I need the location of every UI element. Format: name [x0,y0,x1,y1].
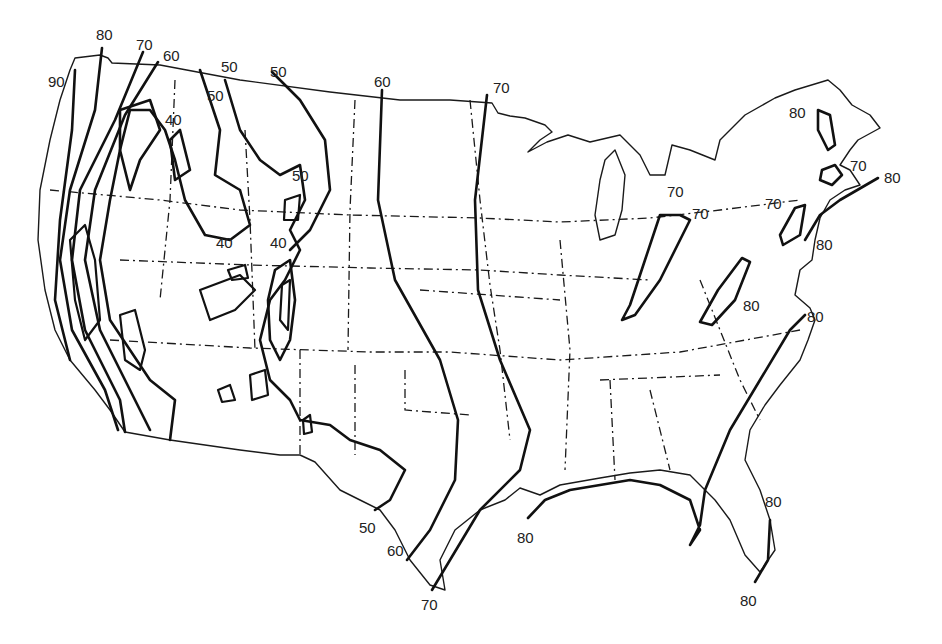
contour-label: 80 [807,309,824,324]
isoline-small5 [303,415,312,434]
contour-label: 50 [292,168,309,183]
us-isoline-map [0,0,942,644]
contour-label: 50 [270,64,287,79]
contour-label: 70 [692,206,709,221]
contour-label: 80 [743,298,760,313]
isoline-appalachian [700,258,750,325]
isoline-small4 [250,370,268,400]
contour-label: 80 [789,105,806,120]
contour-label: 70 [850,158,867,173]
isoline-50-arc [272,72,330,250]
contour-label: 80 [765,494,782,509]
isoline-ne-80 [818,110,835,150]
country-outline [38,55,880,590]
isoline-60-central [378,90,458,560]
isoline-ne-70 [820,165,842,185]
contour-label: 50 [359,520,376,535]
isoline-90 [55,70,75,360]
contour-label: 80 [884,170,901,185]
contour-label: 70 [421,597,438,612]
isoline-50-center [225,80,405,510]
contour-label: 60 [163,48,180,63]
contour-label: 90 [48,74,65,89]
contour-label: 50 [207,88,224,103]
isoline-ne-80b [780,205,805,245]
contour-label: 50 [221,59,238,74]
isoline-west-inner2 [120,310,145,370]
isoline-lake-michigan [622,215,690,320]
contour-label: 40 [216,235,233,250]
isoline-ne-coast [805,178,878,240]
contour-label: 40 [270,235,287,250]
contour-label: 80 [816,237,833,252]
isoline-rockies-inner [280,280,290,330]
contour-label: 80 [96,27,113,42]
isoline-80-florida [755,520,770,582]
contour-label: 70 [667,184,684,199]
contour-label: 70 [493,80,510,95]
contour-label: 80 [740,593,757,608]
isoline-40-west2 [170,130,190,180]
isoline-small2 [284,195,300,220]
isoline-small3 [218,385,235,402]
contour-label: 40 [165,112,182,127]
state-boundaries [50,80,800,480]
isoline-70-central [432,95,530,590]
contour-label: 60 [374,74,391,89]
isoline-nevada [200,275,255,320]
contour-label: 60 [387,543,404,558]
contour-label: 80 [517,530,534,545]
contour-label: 70 [136,37,153,52]
contour-label: 70 [765,196,782,211]
lake-michigan [595,150,625,240]
isolines [55,48,878,590]
isoline-small1 [228,265,248,280]
